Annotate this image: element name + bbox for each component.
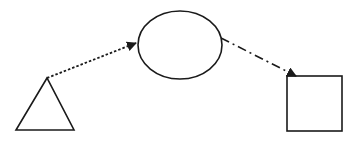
ellipse-node xyxy=(138,11,222,79)
triangle-node xyxy=(16,78,74,130)
dotted-arrow-triangle-to-ellipse xyxy=(47,43,136,78)
diagram-canvas xyxy=(0,0,357,142)
diagram-svg xyxy=(0,0,357,142)
square-node xyxy=(287,76,342,131)
dashdot-arrow-ellipse-to-square xyxy=(221,38,296,76)
